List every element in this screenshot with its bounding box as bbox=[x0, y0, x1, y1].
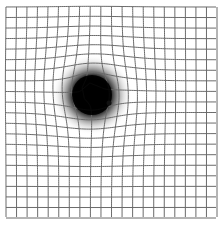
scotoma-core bbox=[72, 75, 112, 115]
scotoma-core-circle bbox=[72, 75, 112, 115]
amsler-grid-figure bbox=[0, 0, 218, 225]
grid-line-vertical bbox=[44, 7, 48, 217]
amsler-grid bbox=[0, 0, 218, 225]
grid-line-horizontal bbox=[6, 6, 216, 7]
small-dot bbox=[107, 101, 112, 106]
grid-line-horizontal bbox=[6, 36, 216, 39]
grid-line-horizontal bbox=[6, 54, 216, 60]
grid-line-horizontal bbox=[6, 176, 216, 177]
grid-line-vertical bbox=[133, 7, 138, 217]
grid-line-vertical bbox=[143, 7, 146, 217]
grid-line-horizontal bbox=[6, 45, 216, 49]
grid-line-horizontal bbox=[6, 134, 216, 139]
